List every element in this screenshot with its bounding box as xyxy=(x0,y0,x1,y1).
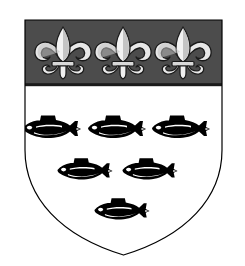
chief-lower-edge xyxy=(20,83,230,86)
coat-of-arms: Coat of Arms xyxy=(0,0,245,266)
fleur-de-lis-group xyxy=(35,27,211,79)
fish-row-top xyxy=(23,116,210,139)
coat-of-arms-svg xyxy=(0,0,245,266)
